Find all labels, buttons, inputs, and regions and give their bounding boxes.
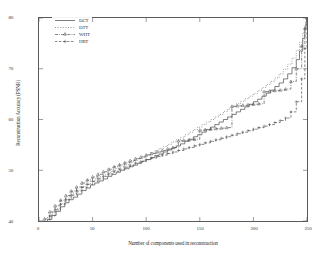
legend-entry-hrt: HRT	[54, 38, 90, 45]
y-tick-label: 70	[0, 66, 13, 71]
x-tick-label: 50	[80, 226, 104, 231]
series-dtt	[39, 18, 307, 221]
legend-sample-dashdot-triangle	[54, 31, 76, 38]
x-tick-label: 0	[26, 226, 50, 231]
legend-sample-solid	[54, 17, 76, 24]
legend-label-hrt: HRT	[79, 38, 88, 45]
legend-sample-dashed-plus	[54, 38, 76, 45]
y-axis-label: Reconstruction Accuracy (PSNR)	[15, 48, 21, 178]
legend-entry-dct: DCT	[54, 17, 90, 24]
legend: DCT DTT WHT HRT	[52, 16, 92, 46]
x-axis-label: Number of components used in reconstruct…	[38, 240, 308, 246]
series-wht	[39, 18, 307, 221]
y-tick-label: 40	[0, 219, 13, 224]
x-tick-label: 250	[296, 226, 320, 231]
legend-label-wht: WHT	[79, 31, 90, 38]
y-tick-label: 50	[0, 168, 13, 173]
legend-sample-dotted	[54, 24, 76, 31]
legend-entry-wht: WHT	[54, 31, 90, 38]
figure-container: 80 70 60 50 40 0 50 100 150 200 250 Reco…	[0, 0, 325, 267]
y-tick-label: 80	[0, 15, 13, 20]
series-dct	[39, 18, 307, 221]
x-tick-label: 100	[134, 226, 158, 231]
plot-svg	[39, 18, 307, 221]
legend-label-dtt: DTT	[79, 24, 88, 31]
x-tick-label: 150	[188, 226, 212, 231]
legend-entry-dtt: DTT	[54, 24, 90, 31]
x-tick-label: 200	[242, 226, 266, 231]
legend-label-dct: DCT	[79, 17, 88, 24]
series-hrt	[39, 18, 307, 221]
plot-area	[38, 17, 308, 222]
axis-ticks	[39, 18, 307, 221]
y-tick-label: 60	[0, 117, 13, 122]
